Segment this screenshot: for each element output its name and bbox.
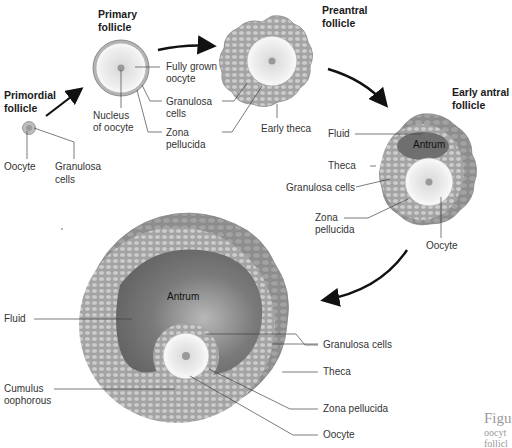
primary-zona-label-line1: Zona [166, 127, 189, 139]
early-antral-follicle [344, 114, 477, 238]
mature-zona-label: Zona pellucida [323, 403, 388, 415]
early-antral-granulosa-label: Granulosa cells [286, 182, 355, 194]
primordial-title-line1: Primordial [4, 89, 56, 102]
mature-oocyte-label: Oocyte [323, 429, 355, 441]
mature-fluid-label: Fluid [4, 313, 26, 325]
mature-theca-label: Theca [323, 366, 351, 378]
preantral-follicle [219, 16, 312, 132]
primary-granulosa-label-line2: cells [166, 108, 186, 120]
mature-cumulus-label-line1: Cumulus [4, 383, 43, 395]
early-antral-title-line1: Early antral [452, 86, 509, 99]
mature-cumulus-label-line2: oophorous [4, 395, 51, 407]
primordial-title-line2: follicle [4, 102, 37, 115]
early-antral-antrum-label: Antrum [413, 139, 445, 151]
early-antral-theca-label: Theca [328, 160, 356, 172]
figure-caption-title: Figu [484, 410, 512, 427]
early-antral-oocyte-label: Oocyte [426, 240, 458, 252]
primary-fully-grown-label-line2: oocyte [166, 73, 195, 85]
figure-caption-line2: oocyt [484, 427, 506, 438]
primordial-granulosa-label-line1: Granulosa [55, 161, 101, 173]
arrow-early-antral-to-mature [325, 250, 407, 300]
primary-nucleus-label-line1: Nucleus [93, 110, 129, 122]
primordial-oocyte-label: Oocyte [4, 161, 36, 173]
mature-granulosa-label: Granulosa cells [323, 339, 392, 351]
arrow-preantral-to-early-antral [328, 69, 385, 104]
primary-zona-label-line2: pellucida [166, 139, 205, 151]
mature-antrum-label: Antrum [167, 291, 199, 303]
preantral-title-line2: follicle [322, 17, 355, 30]
primary-granulosa-label-line1: Granulosa [166, 96, 212, 108]
early-antral-title-line2: follicle [452, 99, 485, 112]
primary-nucleus-label-line2: of oocyte [93, 122, 134, 134]
primordial-granulosa-label-line2: cells [55, 174, 75, 186]
primary-title-line2: follicle [98, 21, 131, 34]
primary-title-line1: Primary [98, 8, 137, 21]
early-antral-zona-label-line2: pellucida [315, 224, 354, 236]
preantral-early-theca-label: Early theca [261, 123, 311, 135]
arrow-primary-to-preantral [158, 46, 212, 51]
early-antral-zona-label-line1: Zona [315, 212, 338, 224]
primary-fully-grown-label-line1: Fully grown [166, 61, 217, 73]
primordial-follicle [23, 122, 75, 160]
figure-caption-line3: follicl [484, 438, 508, 448]
preantral-title-line1: Preantral [322, 4, 368, 17]
mature-follicle [34, 213, 318, 435]
early-antral-fluid-label: Fluid [328, 128, 350, 140]
